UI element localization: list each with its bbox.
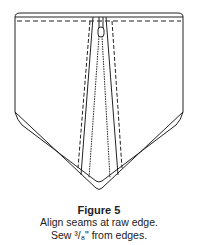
- hem-inner-line: [15, 112, 183, 182]
- zipper-teeth-left: [89, 36, 99, 178]
- zipper-strip-right: [106, 17, 118, 175]
- zipper-pull-icon: [98, 27, 104, 37]
- sewing-diagram: [0, 0, 198, 195]
- figure-title: Figure 5: [0, 204, 198, 216]
- zipper-seam-right-dashed: [112, 21, 122, 168]
- zipper-seam-left-dashed: [78, 21, 90, 168]
- figure-instruction-2: Sew ³/₈" from edges.: [0, 229, 198, 241]
- figure-instruction-1: Align seams at raw edge.: [0, 216, 198, 228]
